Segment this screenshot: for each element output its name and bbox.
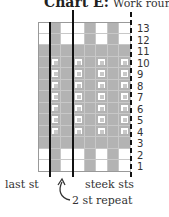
chart-cell xyxy=(96,103,108,115)
chart-cell xyxy=(96,137,108,149)
chart-cell xyxy=(108,114,120,126)
chart-cell xyxy=(50,91,62,103)
label-steek-sts: steek sts xyxy=(85,178,134,191)
chart-cell xyxy=(38,34,50,46)
chart-cell xyxy=(96,149,108,161)
chart-cell xyxy=(50,57,62,69)
row-number: 13 xyxy=(137,23,150,34)
chart-cell xyxy=(73,68,85,80)
chart-cell xyxy=(85,114,97,126)
chart-cell xyxy=(108,57,120,69)
chart-cell xyxy=(38,45,50,57)
chart-cell xyxy=(38,114,50,126)
row-number: 12 xyxy=(137,35,150,46)
chart-cell xyxy=(108,80,120,92)
chart-cell xyxy=(85,149,97,161)
chart-cell xyxy=(108,91,120,103)
chart-cell xyxy=(85,80,97,92)
label-2-st-repeat: 2 st repeat xyxy=(72,194,132,207)
chart-cell xyxy=(73,45,85,57)
row-number: 7 xyxy=(137,92,143,103)
chart-cell xyxy=(85,22,97,34)
chart-cell xyxy=(73,137,85,149)
repeat-boundary-left xyxy=(49,22,51,177)
chart-cell xyxy=(108,22,120,34)
chart-cell xyxy=(38,160,50,172)
row-number: 8 xyxy=(137,81,143,92)
row-number: 4 xyxy=(137,127,143,138)
chart-cell xyxy=(50,126,62,138)
chart-cell xyxy=(50,103,62,115)
chart-cell xyxy=(38,80,50,92)
chart-cell xyxy=(73,80,85,92)
repeat-top-dash xyxy=(72,10,74,22)
chart-cell xyxy=(85,45,97,57)
chart-cell xyxy=(85,160,97,172)
chart-cell xyxy=(96,126,108,138)
repeat-arrow-icon xyxy=(54,176,74,206)
chart-cell xyxy=(108,45,120,57)
chart-cell xyxy=(96,45,108,57)
chart-cell xyxy=(50,160,62,172)
steek-boundary-dashed xyxy=(130,12,132,177)
chart-cell xyxy=(85,34,97,46)
chart-cell xyxy=(108,103,120,115)
chart-cell xyxy=(38,22,50,34)
chart-cell xyxy=(73,114,85,126)
chart-cell xyxy=(73,126,85,138)
repeat-boundary-right xyxy=(72,12,74,177)
chart-cell xyxy=(85,103,97,115)
chart-cell xyxy=(96,91,108,103)
chart-cell xyxy=(73,57,85,69)
chart-cell xyxy=(96,80,108,92)
chart-cell xyxy=(50,114,62,126)
chart-cell xyxy=(85,57,97,69)
chart-cell xyxy=(73,160,85,172)
row-number: 10 xyxy=(137,58,150,69)
chart-cell xyxy=(96,160,108,172)
chart-cell xyxy=(50,34,62,46)
chart-cell xyxy=(108,34,120,46)
chart-cell xyxy=(85,91,97,103)
row-number: 9 xyxy=(137,69,143,80)
chart-cell xyxy=(38,126,50,138)
chart-cell xyxy=(50,137,62,149)
chart-cell xyxy=(108,137,120,149)
row-number: 5 xyxy=(137,115,143,126)
label-last-st: last st xyxy=(5,178,39,191)
chart-cell xyxy=(38,57,50,69)
chart-cell xyxy=(38,103,50,115)
chart-cell xyxy=(108,160,120,172)
chart-cell xyxy=(96,114,108,126)
chart-cell xyxy=(50,149,62,161)
chart-cell xyxy=(96,57,108,69)
chart-cell xyxy=(85,68,97,80)
chart-cell xyxy=(73,149,85,161)
chart-cell xyxy=(108,68,120,80)
chart-cell xyxy=(38,149,50,161)
chart-cell xyxy=(96,22,108,34)
chart-cell xyxy=(38,91,50,103)
chart-cell xyxy=(73,34,85,46)
row-number: 2 xyxy=(137,150,143,161)
chart-cell xyxy=(85,137,97,149)
chart-cell xyxy=(96,34,108,46)
row-number: 1 xyxy=(137,161,143,172)
chart-cell xyxy=(38,68,50,80)
chart-cell xyxy=(96,68,108,80)
chart-cell xyxy=(108,126,120,138)
chart-cell xyxy=(50,22,62,34)
chart-cell xyxy=(50,80,62,92)
chart-cell xyxy=(50,68,62,80)
chart-cell xyxy=(108,149,120,161)
chart-title-bold: Chart E: xyxy=(44,0,109,10)
chart-title: Chart E: Work rounds 1-1 xyxy=(44,0,169,10)
chart-cell xyxy=(50,45,62,57)
chart-title-sub: Work rounds 1-1 xyxy=(113,0,169,10)
chart-cell xyxy=(73,103,85,115)
chart-cell xyxy=(73,22,85,34)
chart-cell xyxy=(85,126,97,138)
knitting-chart-grid xyxy=(38,22,131,172)
row-number: 11 xyxy=(137,46,150,57)
row-number: 3 xyxy=(137,138,143,149)
